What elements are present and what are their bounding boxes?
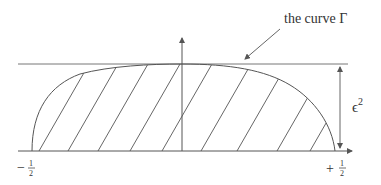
left-tick-denominator: 2	[29, 169, 33, 178]
right-tick-numerator: 1	[340, 159, 344, 168]
left-tick-label: − 1 2	[17, 159, 35, 178]
curve-pointer-arrow	[245, 29, 280, 59]
hatched-region	[39, 64, 360, 151]
right-tick-sign: +	[326, 161, 334, 176]
epsilon-exponent: 2	[358, 96, 363, 107]
left-tick-sign: −	[17, 160, 25, 175]
epsilon-squared-label: ϵ2	[352, 96, 363, 115]
right-tick-denominator: 2	[340, 169, 344, 178]
diagram-svg: the curve Γ ϵ2 − 1 2 + 1 2	[0, 0, 381, 185]
right-tick-label: + 1 2	[326, 159, 346, 178]
curve-gamma	[32, 64, 335, 151]
left-tick-numerator: 1	[29, 159, 33, 168]
curve-label: the curve Γ	[284, 11, 347, 26]
diagram-canvas: the curve Γ ϵ2 − 1 2 + 1 2	[0, 0, 381, 185]
